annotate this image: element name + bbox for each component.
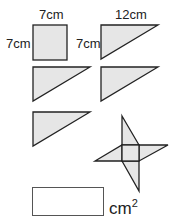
square-side-label: 7cm xyxy=(6,36,31,51)
triangle-top-label: 12cm xyxy=(115,7,147,22)
triangle-shape-4 xyxy=(33,112,90,146)
square-top-label: 7cm xyxy=(39,7,64,22)
triangle-side-label: 7cm xyxy=(76,36,101,51)
answer-input-box[interactable] xyxy=(32,187,104,216)
unit-label: cm2 xyxy=(109,197,138,219)
unit-power: 2 xyxy=(132,197,138,209)
triangle-shape-3 xyxy=(101,67,158,101)
square-shape xyxy=(33,25,67,60)
triangle-shape-2 xyxy=(33,67,90,101)
triangle-shape-1 xyxy=(101,25,158,59)
pinwheel-shape xyxy=(95,116,168,191)
unit-text: cm xyxy=(109,199,132,218)
